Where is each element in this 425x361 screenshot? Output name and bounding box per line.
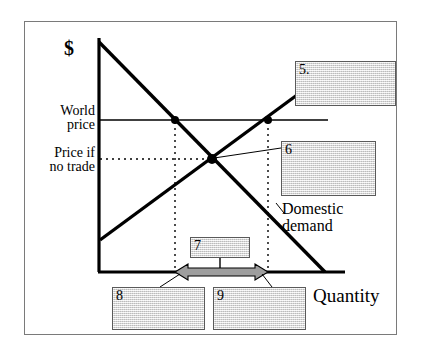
world-price-label: World price: [37, 104, 95, 133]
diagram-canvas: $ World price Price if no trade Domestic…: [0, 0, 425, 361]
leader-line-box9: [262, 274, 272, 287]
answer-box-7[interactable]: 7: [190, 237, 250, 258]
answer-box-5-number: 5.: [299, 62, 310, 78]
answer-box-8[interactable]: 8: [112, 287, 205, 330]
equilibrium-no-trade-marker: [207, 154, 217, 164]
answer-box-8-number: 8: [116, 288, 123, 304]
imports-span-arrow: [175, 264, 268, 280]
y-axis-label: $: [64, 38, 74, 58]
answer-box-9-number: 9: [217, 288, 224, 304]
answer-box-6-number: 6: [285, 142, 292, 158]
domestic-demand-label: Domestic demand: [282, 200, 343, 235]
answer-box-5[interactable]: 5.: [295, 61, 396, 106]
demand-at-world-price-marker: [171, 116, 179, 124]
supply-at-world-price-marker: [264, 116, 272, 124]
x-axis-label: Quantity: [313, 286, 380, 305]
answer-box-7-number: 7: [194, 238, 201, 254]
answer-box-6[interactable]: 6: [281, 141, 376, 196]
price-if-no-trade-label: Price if no trade: [25, 146, 95, 175]
leader-line-box8: [160, 274, 180, 287]
answer-box-9[interactable]: 9: [213, 287, 306, 330]
